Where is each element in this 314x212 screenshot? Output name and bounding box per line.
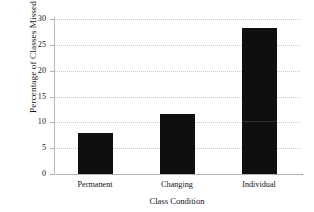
y-tick-mark [50,148,54,149]
y-tick-mark [50,19,54,20]
bar-chart: Percentage of Classes Missed 05101520253… [0,0,314,212]
y-tick-label: 15 [6,92,46,100]
y-tick-label: 20 [6,67,46,75]
bar [242,28,277,174]
y-tick-label: 5 [6,144,46,152]
plot-area: 051015202530 [54,19,300,174]
y-tick-label: 0 [6,170,46,178]
bar [160,114,195,174]
x-tick-label: Changing [137,180,217,189]
x-tick-label: Individual [219,180,299,189]
x-axis-title: Class Condition [54,196,300,206]
bar-seam [242,121,277,122]
bar [78,133,113,174]
gridline [54,19,300,20]
y-tick-mark [50,45,54,46]
y-tick-label: 25 [6,41,46,49]
y-tick-mark [50,97,54,98]
gridline [54,174,300,175]
y-tick-mark [50,71,54,72]
y-tick-mark [50,174,54,175]
y-tick-label: 10 [6,118,46,126]
y-tick-label: 30 [6,15,46,23]
y-tick-mark [50,122,54,123]
x-tick-label: Permanent [55,180,135,189]
